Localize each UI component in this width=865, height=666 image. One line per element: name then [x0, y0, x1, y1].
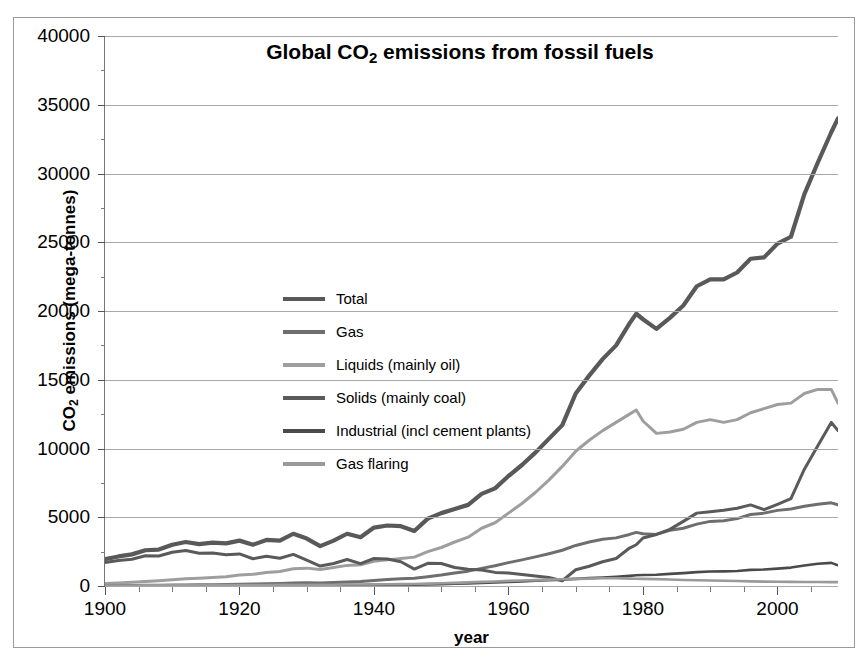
- y-axis-title-main: CO: [60, 406, 79, 432]
- x-tick: [105, 587, 106, 595]
- x-axis-title: year: [105, 628, 838, 648]
- x-tick-minor: [340, 587, 341, 592]
- gridline: [105, 586, 838, 587]
- y-tick: [98, 517, 105, 518]
- x-tick-label: 1940: [329, 598, 419, 620]
- y-tick-minor: [101, 414, 105, 415]
- y-tick-label: 0: [0, 576, 90, 595]
- x-tick: [643, 587, 644, 595]
- x-tick-minor: [139, 587, 140, 592]
- y-tick-minor: [101, 483, 105, 484]
- legend-swatch-icon: [283, 363, 325, 367]
- y-tick: [98, 36, 105, 37]
- legend-label: Total: [336, 290, 368, 307]
- legend-item[interactable]: Total: [283, 282, 531, 315]
- y-tick: [98, 311, 105, 312]
- y-tick-label: 15000: [0, 370, 90, 389]
- x-tick-minor: [273, 587, 274, 592]
- y-tick-label: 5000: [0, 507, 90, 526]
- x-tick-minor: [811, 587, 812, 592]
- legend-label: Solids (mainly coal): [336, 389, 466, 406]
- x-tick: [239, 587, 240, 595]
- y-tick-minor: [101, 345, 105, 346]
- x-tick-minor: [744, 587, 745, 592]
- x-tick-minor: [576, 587, 577, 592]
- legend-label: Industrial (incl cement plants): [336, 422, 531, 439]
- y-tick-minor: [101, 208, 105, 209]
- y-axis-title-subscript: 2: [67, 399, 81, 406]
- y-tick-minor: [101, 277, 105, 278]
- legend-item[interactable]: Industrial (incl cement plants): [283, 414, 531, 447]
- y-tick-label: 25000: [0, 232, 90, 251]
- y-tick: [98, 174, 105, 175]
- x-tick: [777, 587, 778, 595]
- y-tick-minor: [101, 70, 105, 71]
- legend-item[interactable]: Gas flaring: [283, 447, 531, 480]
- x-tick-label: 1900: [60, 598, 150, 620]
- y-tick-label: 35000: [0, 95, 90, 114]
- y-axis-title-rest: emissions (mega-tonnes): [60, 190, 79, 400]
- y-tick: [98, 449, 105, 450]
- x-tick-label: 1980: [598, 598, 688, 620]
- legend-item[interactable]: Solids (mainly coal): [283, 381, 531, 414]
- chart-figure: Global CO2 emissions from fossil fuels C…: [0, 0, 865, 666]
- x-tick-minor: [206, 587, 207, 592]
- x-tick-label: 1960: [463, 598, 553, 620]
- x-tick: [508, 587, 509, 595]
- legend-label: Gas flaring: [336, 455, 409, 472]
- x-tick-label: 1920: [194, 598, 284, 620]
- x-tick: [374, 587, 375, 595]
- x-tick-minor: [710, 587, 711, 592]
- x-tick-minor: [307, 587, 308, 592]
- legend-item[interactable]: Gas: [283, 315, 531, 348]
- gridline: [105, 517, 838, 518]
- x-tick-minor: [475, 587, 476, 592]
- x-tick-label: 2000: [732, 598, 822, 620]
- legend-label: Gas: [336, 323, 364, 340]
- gridline: [105, 242, 838, 243]
- gridline: [105, 105, 838, 106]
- plot-area: TotalGasLiquids (mainly oil)Solids (main…: [105, 36, 838, 586]
- chart-legend: TotalGasLiquids (mainly oil)Solids (main…: [283, 282, 531, 480]
- x-tick-minor: [677, 587, 678, 592]
- legend-swatch-icon: [283, 297, 325, 301]
- legend-swatch-icon: [283, 396, 325, 400]
- gridline: [105, 36, 838, 37]
- gridline: [105, 174, 838, 175]
- y-tick: [98, 105, 105, 106]
- legend-swatch-icon: [283, 330, 325, 334]
- y-tick-label: 20000: [0, 301, 90, 320]
- legend-swatch-icon: [283, 462, 325, 466]
- x-tick-minor: [542, 587, 543, 592]
- x-tick-minor: [172, 587, 173, 592]
- x-tick-minor: [441, 587, 442, 592]
- y-tick-label: 10000: [0, 439, 90, 458]
- x-tick-minor: [408, 587, 409, 592]
- y-tick-minor: [101, 139, 105, 140]
- y-tick: [98, 380, 105, 381]
- y-tick: [98, 242, 105, 243]
- x-tick-minor: [609, 587, 610, 592]
- legend-item[interactable]: Liquids (mainly oil): [283, 348, 531, 381]
- y-tick: [98, 586, 105, 587]
- y-tick-label: 30000: [0, 164, 90, 183]
- legend-swatch-icon: [283, 429, 325, 433]
- y-tick-minor: [101, 552, 105, 553]
- legend-label: Liquids (mainly oil): [336, 356, 460, 373]
- y-tick-label: 40000: [0, 26, 90, 45]
